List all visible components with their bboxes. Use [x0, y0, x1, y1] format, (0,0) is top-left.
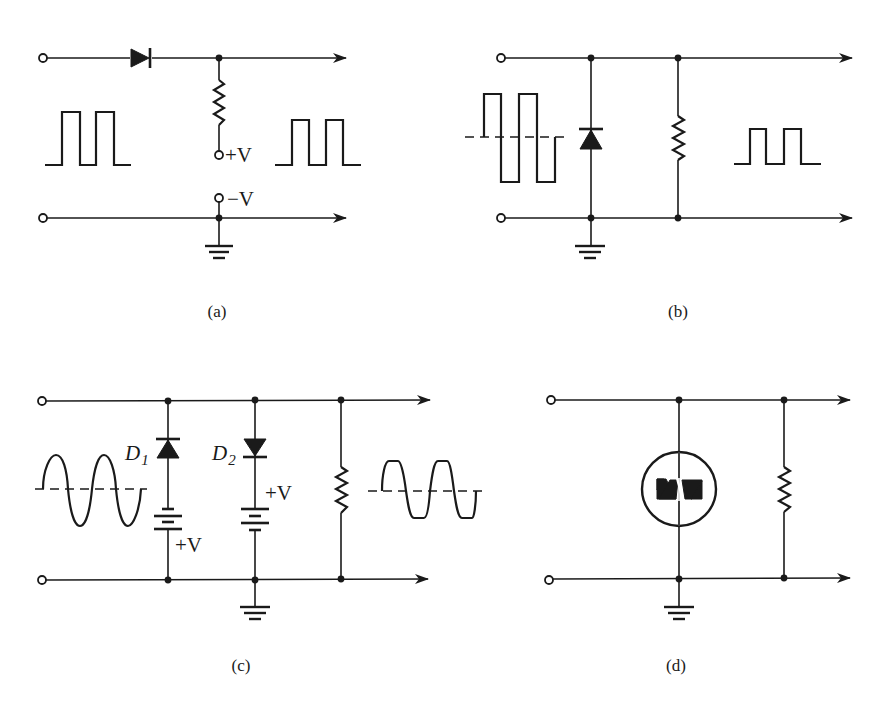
resistor-icon [336, 467, 347, 513]
input-waveform-square [45, 112, 131, 165]
ground-icon [240, 607, 270, 619]
caption-b: (b) [668, 302, 688, 321]
input-terminal-top [39, 54, 47, 62]
ground-icon [664, 607, 694, 619]
resistor-icon [779, 467, 790, 512]
d2-label: D2 [211, 441, 236, 468]
battery-2-icon [241, 509, 269, 530]
caption-d: (d) [666, 656, 686, 675]
diode-icon [131, 48, 150, 68]
battery-1-label: +V [175, 533, 202, 557]
circuit-figure: +V −V (a) [0, 0, 889, 701]
bidirectional-tvs-icon [642, 452, 716, 526]
resistor-icon [673, 116, 684, 160]
d1-label: D1 [124, 441, 149, 468]
input-terminal-bottom [39, 214, 47, 222]
output-wire-top [46, 400, 430, 401]
ground-icon [575, 246, 605, 258]
output-wire-bottom [46, 579, 428, 580]
input-terminal-top [497, 54, 505, 62]
diode-d1-icon [156, 439, 180, 458]
output-waveform-square [275, 120, 361, 165]
diode-d2-icon [243, 439, 267, 457]
caption-a: (a) [208, 302, 227, 321]
battery-1-icon [154, 509, 182, 529]
output-waveform-clipped-sine [382, 461, 476, 518]
panel-b: (b) [465, 54, 852, 321]
caption-c: (c) [232, 656, 251, 675]
input-terminal-top [547, 396, 555, 404]
input-waveform-sine [43, 455, 141, 526]
output-waveform-square [734, 129, 821, 164]
minus-v-label: −V [227, 187, 254, 211]
panel-a: +V −V (a) [39, 48, 361, 321]
input-terminal-top [38, 397, 46, 405]
input-terminal-bottom [38, 576, 46, 584]
junction-dot [216, 215, 223, 222]
panel-d: (d) [545, 396, 850, 675]
input-terminal-bottom [545, 576, 553, 584]
panel-c: D1 +V D2 +V [35, 397, 485, 675]
resistor-icon [214, 80, 224, 125]
bias-terminal-minus [215, 194, 223, 202]
input-waveform-bipolar-square [484, 94, 555, 182]
ground-icon [205, 246, 233, 258]
output-wire-bottom [553, 578, 850, 579]
battery-2-label: +V [265, 481, 292, 505]
diode-icon [579, 129, 603, 149]
plus-v-label: +V [225, 143, 252, 167]
input-terminal-bottom [497, 214, 505, 222]
bias-terminal-plus [215, 151, 223, 159]
